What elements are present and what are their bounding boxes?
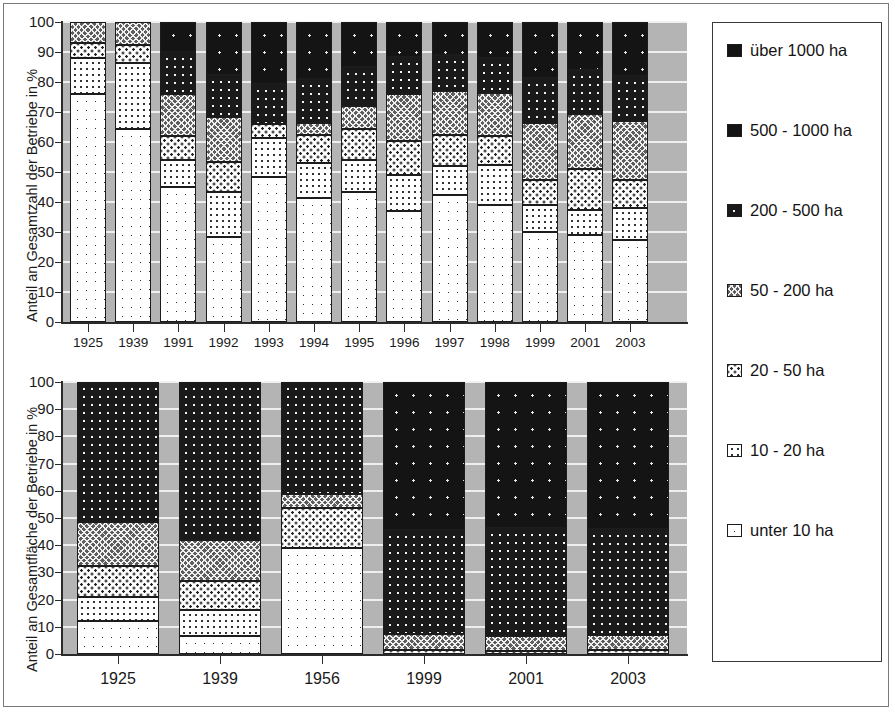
legend-swatch-s20_50 bbox=[727, 364, 742, 377]
chart-top-bar-segment bbox=[386, 94, 422, 141]
chart-top-bar-segment bbox=[296, 22, 332, 79]
chart-bottom-y-tick bbox=[55, 518, 62, 519]
chart-top-bar-segment bbox=[115, 22, 151, 45]
chart-top-y-tick-label: 40 bbox=[14, 194, 54, 209]
chart-bottom-bar-segment bbox=[77, 597, 159, 621]
chart-top-bar-segment bbox=[477, 58, 513, 93]
chart-bottom-y-tick-label: 10 bbox=[14, 619, 54, 634]
chart-top-bar[interactable] bbox=[522, 22, 558, 322]
chart-top-bar[interactable] bbox=[341, 22, 377, 322]
chart-bottom-bar-segment bbox=[179, 540, 261, 581]
chart-bottom-bar-segment bbox=[77, 566, 159, 597]
chart-top-bar-segment bbox=[612, 208, 648, 240]
legend-label-u10: unter 10 ha bbox=[750, 521, 833, 540]
chart-bottom-bar[interactable] bbox=[587, 382, 669, 654]
chart-top-bar-segment bbox=[341, 160, 377, 192]
legend-swatch-u10 bbox=[727, 524, 742, 537]
chart-top-bar-segment bbox=[115, 63, 151, 129]
chart-bottom-bar-segment bbox=[587, 635, 669, 650]
chart-bottom-y-tick-label: 60 bbox=[14, 483, 54, 498]
chart-top-bar[interactable] bbox=[386, 22, 422, 322]
chart-top-bar-segment bbox=[477, 22, 513, 58]
chart-bottom-y-tick bbox=[55, 600, 62, 601]
chart-bottom-bar[interactable] bbox=[485, 382, 567, 654]
chart-top-y-tick bbox=[55, 292, 62, 293]
chart-top-bar[interactable] bbox=[567, 22, 603, 322]
chart-top-bar-segment bbox=[206, 162, 242, 192]
chart-top-bar-segment bbox=[115, 45, 151, 63]
legend-label-s50_200: 50 - 200 ha bbox=[750, 281, 833, 300]
chart-bottom-bar[interactable] bbox=[281, 382, 363, 654]
chart-top-bar-segment bbox=[522, 205, 558, 232]
legend-item-s10_20[interactable]: 10 - 20 ha bbox=[727, 441, 824, 460]
chart-bottom-y-tick bbox=[55, 464, 62, 465]
chart-top-bar-segment bbox=[296, 198, 332, 323]
chart-bottom-x-tick bbox=[220, 656, 221, 664]
chart-bottom-x-tick-label: 2001 bbox=[496, 670, 556, 688]
legend-label-s10_20: 10 - 20 ha bbox=[750, 441, 824, 460]
chart-bottom-bar-segment bbox=[77, 621, 159, 654]
chart-bottom-x-tick bbox=[118, 656, 119, 664]
chart-top-bar-segment bbox=[206, 75, 242, 117]
legend-swatch-s50_200 bbox=[727, 284, 742, 297]
chart-top-bar-segment bbox=[612, 121, 648, 180]
legend-item-u10[interactable]: unter 10 ha bbox=[727, 521, 833, 540]
chart-top-bar[interactable] bbox=[251, 22, 287, 322]
chart-top-bar-segment bbox=[522, 123, 558, 180]
chart-top-bar[interactable] bbox=[296, 22, 332, 322]
chart-top-y-tick-label: 60 bbox=[14, 134, 54, 149]
chart-top-bar-segment bbox=[341, 192, 377, 323]
legend: über 1000 ha500 - 1000 ha200 - 500 ha50 … bbox=[712, 22, 882, 662]
legend-item-o1000[interactable]: über 1000 ha bbox=[727, 41, 847, 60]
legend-item-s500_1000[interactable]: 500 - 1000 ha bbox=[727, 121, 852, 140]
legend-item-s50_200[interactable]: 50 - 200 ha bbox=[727, 281, 833, 300]
chart-bottom-x-tick bbox=[526, 656, 527, 664]
chart-bottom-x-axis bbox=[61, 654, 688, 656]
chart-bottom-x-tick bbox=[424, 656, 425, 664]
chart-bottom-bar-segment bbox=[77, 382, 159, 522]
chart-bottom-bar-segment bbox=[281, 508, 363, 547]
figure-root: Anteil an Gesamtzahl der Betriebe in % 0… bbox=[0, 0, 895, 713]
chart-bottom-y-tick-label: 20 bbox=[14, 592, 54, 607]
chart-bottom-bar-segment bbox=[485, 528, 567, 637]
legend-item-s200_500[interactable]: 200 - 500 ha bbox=[727, 201, 843, 220]
chart-top-bar-segment bbox=[567, 235, 603, 322]
chart-top-bar-segment bbox=[432, 166, 468, 195]
chart-top-bar[interactable] bbox=[206, 22, 242, 322]
chart-top-bar-segment bbox=[341, 106, 377, 129]
chart-top-y-tick bbox=[55, 52, 62, 53]
chart-top-bar[interactable] bbox=[432, 22, 468, 322]
chart-bottom-y-tick-label: 90 bbox=[14, 401, 54, 416]
chart-top-bar-segment bbox=[251, 124, 287, 138]
chart-bottom-bar-segment bbox=[485, 636, 567, 651]
chart-top-bar-segment bbox=[341, 129, 377, 161]
chart-top-bar-segment bbox=[206, 117, 242, 162]
chart-top-y-tick bbox=[55, 232, 62, 233]
chart-top-x-tick bbox=[359, 324, 360, 332]
chart-top-bar[interactable] bbox=[477, 22, 513, 322]
chart-bottom-bar-segment bbox=[587, 529, 669, 635]
chart-top-bar[interactable] bbox=[70, 22, 106, 322]
chart-bottom-bar[interactable] bbox=[383, 382, 465, 654]
chart-top-bar-segment bbox=[206, 22, 242, 75]
chart-top-bar-segment bbox=[70, 94, 106, 322]
chart-bottom-bar-segment bbox=[383, 634, 465, 650]
chart-top-bar-segment bbox=[477, 205, 513, 322]
chart-top-bar-segment bbox=[477, 165, 513, 206]
chart-top-y-tick-label: 30 bbox=[14, 224, 54, 239]
chart-top-bar[interactable] bbox=[612, 22, 648, 322]
legend-swatch-o1000 bbox=[727, 44, 742, 57]
chart-bottom-y-tick-label: 50 bbox=[14, 510, 54, 525]
chart-top-y-tick-label: 20 bbox=[14, 254, 54, 269]
chart-bottom-y-tick bbox=[55, 382, 62, 383]
chart-top-bar-segment bbox=[206, 192, 242, 237]
legend-item-s20_50[interactable]: 20 - 50 ha bbox=[727, 361, 824, 380]
chart-top-bar[interactable] bbox=[160, 22, 196, 322]
chart-bottom-bar[interactable] bbox=[179, 382, 261, 654]
chart-top-bar-segment bbox=[522, 232, 558, 322]
chart-bottom-bar[interactable] bbox=[77, 382, 159, 654]
chart-bottom-y-tick bbox=[55, 545, 62, 546]
chart-top-x-tick bbox=[224, 324, 225, 332]
chart-top-bar[interactable] bbox=[115, 22, 151, 322]
chart-top-y-tick bbox=[55, 322, 62, 323]
